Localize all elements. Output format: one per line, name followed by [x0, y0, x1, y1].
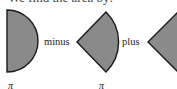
sector-shape [77, 12, 119, 72]
area-decomposition-figure [0, 0, 177, 89]
sector-pi-label: π [99, 81, 104, 89]
minus-label: minus [44, 36, 70, 47]
triangle-shape [148, 12, 177, 72]
semicircle-pi-label: π [8, 81, 13, 89]
plus-label: plus [122, 36, 140, 47]
semicircle-shape [7, 10, 38, 72]
